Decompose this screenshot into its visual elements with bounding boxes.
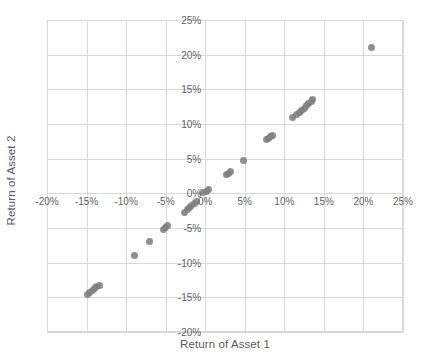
y-tick-label: -20%: [178, 327, 201, 338]
gridline-horizontal: [47, 89, 403, 90]
x-tick-label: -15%: [75, 196, 98, 207]
gridline-horizontal: [47, 263, 403, 264]
gridline-vertical: [403, 20, 404, 332]
gridline-vertical: [284, 20, 285, 332]
x-tick-label: -10%: [114, 196, 137, 207]
data-point: [96, 282, 103, 289]
gridline-vertical: [126, 20, 127, 332]
y-tick-label: 15%: [181, 84, 201, 95]
gridline-vertical: [245, 20, 246, 332]
gridline-horizontal: [47, 228, 403, 229]
plot-area: -20%-15%-10%-5%0%5%10%15%20%25%-20%-15%-…: [47, 20, 403, 332]
gridline-vertical: [47, 20, 48, 332]
y-tick-label: -5%: [183, 223, 201, 234]
y-tick-label: 5%: [187, 153, 201, 164]
gridline-vertical: [205, 20, 206, 332]
x-tick-label: -20%: [35, 196, 58, 207]
y-axis-title: Return of Asset 2: [0, 0, 22, 361]
gridline-horizontal: [47, 20, 403, 21]
y-tick-label: 0%: [187, 188, 201, 199]
gridline-vertical: [166, 20, 167, 332]
y-tick-label: 10%: [181, 119, 201, 130]
gridline-vertical: [87, 20, 88, 332]
data-point: [205, 186, 212, 193]
x-tick-label: 15%: [314, 196, 334, 207]
data-point: [368, 44, 375, 51]
x-axis-title: Return of Asset 1: [47, 338, 403, 350]
data-point: [227, 168, 234, 175]
scatter-chart: Return of Asset 2 -20%-15%-10%-5%0%5%10%…: [0, 0, 434, 361]
x-tick-label: 5%: [238, 196, 252, 207]
gridline-vertical: [363, 20, 364, 332]
x-tick-label: 20%: [353, 196, 373, 207]
gridline-horizontal: [47, 332, 403, 333]
x-tick-label: -5%: [157, 196, 175, 207]
gridline-horizontal: [47, 297, 403, 298]
y-tick-label: -15%: [178, 292, 201, 303]
x-tick-label: 10%: [274, 196, 294, 207]
y-tick-label: 25%: [181, 15, 201, 26]
gridline-horizontal: [47, 159, 403, 160]
x-tick-label: 25%: [393, 196, 413, 207]
y-tick-label: -10%: [178, 257, 201, 268]
gridline-horizontal: [47, 193, 403, 194]
gridline-vertical: [324, 20, 325, 332]
y-tick-label: 20%: [181, 49, 201, 60]
data-point: [131, 252, 138, 259]
data-point: [309, 96, 316, 103]
data-point: [240, 157, 247, 164]
gridline-horizontal: [47, 124, 403, 125]
data-point: [146, 238, 153, 245]
gridline-horizontal: [47, 55, 403, 56]
data-point: [269, 132, 276, 139]
